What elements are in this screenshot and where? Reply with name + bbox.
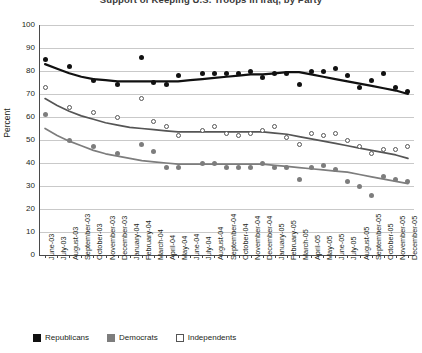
- data-point: [176, 73, 181, 78]
- data-point: [309, 69, 314, 74]
- legend-label-democrats: Democrats: [119, 333, 158, 342]
- data-point: [43, 57, 48, 62]
- data-point: [248, 69, 253, 74]
- data-point: [393, 85, 398, 90]
- data-point: [321, 69, 326, 74]
- data-point: [224, 131, 229, 136]
- data-point: [369, 193, 374, 198]
- data-point: [164, 124, 169, 129]
- data-point: [236, 71, 241, 76]
- data-point: [212, 161, 217, 166]
- data-point: [297, 82, 302, 87]
- data-point: [309, 165, 314, 170]
- trend-line-independents: [45, 99, 408, 159]
- legend-swatch-independents-icon: [176, 334, 184, 342]
- data-point: [115, 115, 120, 120]
- data-point: [43, 85, 48, 90]
- legend-swatch-republicans-icon: [33, 334, 41, 342]
- data-point: [248, 131, 253, 136]
- data-point: [43, 112, 48, 117]
- data-point: [91, 78, 96, 83]
- data-point: [67, 64, 72, 69]
- data-point: [164, 165, 169, 170]
- data-point: [357, 184, 362, 189]
- data-point: [164, 82, 169, 87]
- data-point: [200, 161, 205, 166]
- trend-line-democrats: [45, 129, 408, 184]
- data-point: [176, 133, 181, 138]
- legend-label-republicans: Republicans: [45, 333, 89, 342]
- chart-legend: Republicans Democrats Independents: [33, 333, 246, 342]
- data-point: [333, 131, 338, 136]
- legend-item-republicans: Republicans: [33, 333, 89, 342]
- data-point: [67, 138, 72, 143]
- trend-lines: [0, 0, 422, 353]
- trend-line-republicans: [45, 64, 408, 94]
- data-point: [212, 124, 217, 129]
- legend-item-independents: Independents: [176, 333, 237, 342]
- data-point: [236, 133, 241, 138]
- data-point: [321, 163, 326, 168]
- data-point: [200, 71, 205, 76]
- legend-label-independents: Independents: [188, 333, 237, 342]
- data-point: [345, 138, 350, 143]
- data-point: [297, 177, 302, 182]
- data-point: [381, 147, 386, 152]
- data-point: [224, 71, 229, 76]
- data-point: [393, 177, 398, 182]
- data-point: [321, 133, 326, 138]
- data-point: [91, 110, 96, 115]
- data-point: [212, 71, 217, 76]
- legend-item-democrats: Democrats: [107, 333, 158, 342]
- data-point: [369, 78, 374, 83]
- data-point: [309, 131, 314, 136]
- data-point: [176, 165, 181, 170]
- data-point: [357, 85, 362, 90]
- legend-swatch-democrats-icon: [107, 334, 115, 342]
- chart-container: Support of Keeping U.S. Troops in Iraq, …: [0, 0, 422, 353]
- data-point: [297, 142, 302, 147]
- data-point: [345, 179, 350, 184]
- data-point: [260, 161, 265, 166]
